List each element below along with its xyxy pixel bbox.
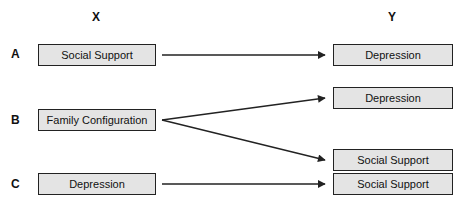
arrow-b-bottom: [162, 120, 325, 160]
arrow-b-top: [162, 98, 325, 120]
arrows-layer: [0, 0, 461, 206]
